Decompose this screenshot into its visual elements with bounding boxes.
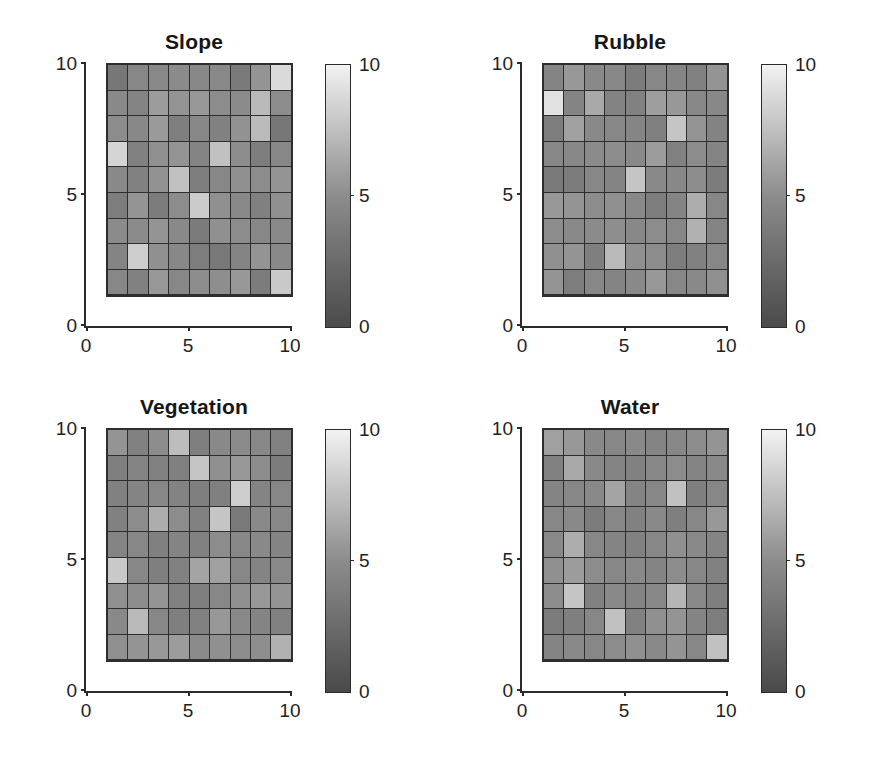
heatmap-cell bbox=[210, 507, 229, 532]
heatmap-cell bbox=[564, 558, 583, 583]
heatmap-cell bbox=[667, 532, 686, 557]
heatmap-cell bbox=[231, 430, 250, 455]
x-tick-label-rubble-5: 5 bbox=[619, 335, 630, 357]
heatmap-cell bbox=[210, 532, 229, 557]
heatmap-cell bbox=[108, 193, 127, 218]
heatmap-cell bbox=[564, 584, 583, 609]
heatmap-cell bbox=[149, 532, 168, 557]
heatmap-cell bbox=[128, 91, 147, 116]
heatmap-cell bbox=[251, 193, 270, 218]
heatmap-cell bbox=[544, 584, 563, 609]
heatmap-cell bbox=[564, 481, 583, 506]
colorbar-water: 0510 bbox=[761, 429, 787, 693]
x-tick-label-rubble-0: 0 bbox=[517, 335, 528, 357]
heatmap-cell bbox=[190, 65, 210, 90]
heatmap-cell bbox=[210, 481, 229, 506]
heatmap-cell bbox=[667, 219, 686, 244]
heatmap-cell bbox=[585, 116, 604, 141]
y-tick-label-rubble-0: 0 bbox=[502, 315, 513, 337]
heatmap-cell bbox=[585, 558, 604, 583]
heatmap-cell bbox=[169, 91, 188, 116]
heatmap-cell bbox=[149, 635, 168, 660]
heatmap-cell bbox=[128, 558, 147, 583]
heatmap-cell bbox=[687, 219, 706, 244]
heatmap-cell bbox=[128, 430, 147, 455]
heatmap-cell bbox=[626, 584, 646, 609]
heatmap-cell bbox=[626, 193, 646, 218]
heatmap-cell bbox=[667, 430, 686, 455]
axes-water: 05100510 bbox=[520, 429, 726, 693]
colorbar-rubble: 0510 bbox=[761, 64, 787, 328]
panel-vegetation: Vegetation051005100510 bbox=[12, 385, 432, 755]
heatmap-cell bbox=[707, 270, 726, 295]
heatmap-cell bbox=[585, 142, 604, 167]
heatmap-cell bbox=[544, 91, 563, 116]
heatmap-cell bbox=[667, 244, 686, 269]
heatmap-cell bbox=[210, 167, 229, 192]
heatmap-cell bbox=[707, 219, 726, 244]
heatmap-cell bbox=[707, 91, 726, 116]
heatmap-cell bbox=[190, 430, 210, 455]
heatmap-cell bbox=[128, 244, 147, 269]
heatmap-cell bbox=[190, 167, 210, 192]
heatmap-cell bbox=[271, 532, 290, 557]
axes-vegetation: 05100510 bbox=[84, 429, 290, 693]
heatmap-cell bbox=[108, 430, 127, 455]
heatmap-cell bbox=[271, 635, 290, 660]
heatmap-cell bbox=[231, 584, 250, 609]
heatmap-cell bbox=[190, 558, 210, 583]
heatmap-cell bbox=[544, 456, 563, 481]
heatmap-cell bbox=[251, 430, 270, 455]
heatmap-cell bbox=[231, 116, 250, 141]
heatmap-cell bbox=[544, 430, 563, 455]
heatmap-cell bbox=[251, 481, 270, 506]
heatmap-cell bbox=[169, 244, 188, 269]
heatmap-cell bbox=[271, 91, 290, 116]
y-tick-label-vegetation-5: 5 bbox=[66, 549, 77, 571]
heatmap-cell bbox=[667, 65, 686, 90]
heatmap-cell bbox=[128, 532, 147, 557]
colorbar-tick-label-vegetation-5: 5 bbox=[359, 550, 370, 572]
heatmap-cell bbox=[605, 558, 624, 583]
x-tick-vegetation-0 bbox=[86, 691, 88, 696]
heatmap-cell bbox=[707, 507, 726, 532]
y-tick-label-water-0: 0 bbox=[502, 680, 513, 702]
heatmap-cell bbox=[271, 244, 290, 269]
heatmap-cell bbox=[564, 609, 583, 634]
heatmap-cell bbox=[544, 65, 563, 90]
y-tick-rubble-10 bbox=[517, 62, 522, 64]
heatmap-cell bbox=[626, 481, 646, 506]
y-tick-label-slope-5: 5 bbox=[66, 184, 77, 206]
figure-canvas: Slope051005100510Rubble051005100510Veget… bbox=[0, 0, 872, 765]
heatmap-cell bbox=[251, 635, 270, 660]
x-tick-label-water-10: 10 bbox=[715, 700, 736, 722]
heatmap-cell bbox=[149, 244, 168, 269]
heatmap-cell bbox=[646, 116, 665, 141]
heatmap-cell bbox=[169, 584, 188, 609]
heatmap-cell bbox=[564, 244, 583, 269]
heatmap-cell bbox=[626, 116, 646, 141]
colorbar-tick-label-rubble-10: 10 bbox=[795, 54, 816, 76]
heatmap-cell bbox=[108, 270, 127, 295]
heatmap-cell bbox=[210, 270, 229, 295]
heatmap-cell bbox=[128, 507, 147, 532]
heatmap-cell bbox=[585, 91, 604, 116]
heatmap-cell bbox=[169, 507, 188, 532]
heatmap-cell bbox=[149, 91, 168, 116]
heatmap-cell bbox=[149, 142, 168, 167]
heatmap-cell bbox=[585, 270, 604, 295]
heatmap-cell bbox=[149, 167, 168, 192]
heatmap-cell bbox=[605, 270, 624, 295]
colorbar-tick-label-vegetation-10: 10 bbox=[359, 419, 380, 441]
heatmap-cell bbox=[707, 244, 726, 269]
heatmap-cell bbox=[251, 65, 270, 90]
heatmap-cell bbox=[271, 609, 290, 634]
heatmap-cell bbox=[626, 65, 646, 90]
heatmap-cell bbox=[128, 219, 147, 244]
heatmap-cell bbox=[149, 481, 168, 506]
y-tick-water-5 bbox=[517, 558, 522, 560]
heatmap-grid-water bbox=[543, 429, 728, 661]
heatmap-cell bbox=[544, 167, 563, 192]
heatmap-cell bbox=[108, 142, 127, 167]
heatmap-cell bbox=[564, 91, 583, 116]
